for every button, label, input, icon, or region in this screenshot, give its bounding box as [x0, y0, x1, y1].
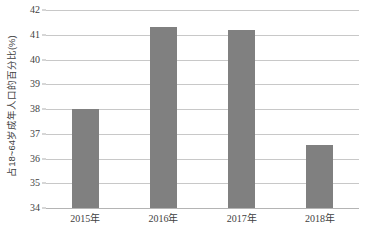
y-axis-tick-label: 40: [30, 55, 40, 65]
bar-chart: 占18~64岁成年人口的百分比(%) 343536373839404142 20…: [0, 0, 367, 242]
y-axis-title: 占18~64岁成年人口的百分比(%): [0, 0, 22, 212]
bar: [72, 109, 99, 208]
y-axis-tick-label: 41: [30, 30, 40, 40]
y-axis-tick-label: 38: [30, 104, 40, 114]
gridline: [46, 208, 359, 209]
x-axis-tick-label: 2015年: [70, 210, 100, 225]
bar: [150, 27, 177, 208]
y-axis-tick-label: 37: [30, 129, 40, 139]
y-axis-tick-label: 42: [30, 5, 40, 15]
y-axis-title-label: 占18~64岁成年人口的百分比(%): [4, 35, 18, 176]
y-axis-tick-labels: 343536373839404142: [20, 10, 46, 208]
y-axis-tick-label: 34: [30, 203, 40, 213]
bar: [228, 30, 255, 208]
y-axis-tick-label: 35: [30, 178, 40, 188]
plot-area: [46, 10, 359, 208]
y-axis-tick-label: 36: [30, 154, 40, 164]
bar-series: [46, 10, 359, 208]
bar: [306, 145, 333, 208]
y-axis-tick-label: 39: [30, 79, 40, 89]
x-axis-tick-label: 2017年: [227, 210, 257, 225]
x-axis-tick-label: 2018年: [305, 210, 335, 225]
x-axis-tick-labels: 2015年2016年2017年2018年: [46, 210, 359, 228]
x-axis-tick-label: 2016年: [148, 210, 178, 225]
